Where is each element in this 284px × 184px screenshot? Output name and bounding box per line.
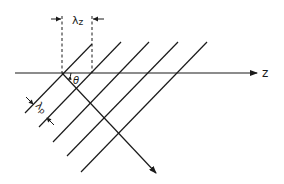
- wavefront-4: [67, 42, 178, 156]
- lambda-z-label: λz: [72, 14, 84, 27]
- theta-label: θ: [73, 75, 79, 86]
- wavefront-5: [81, 42, 207, 172]
- z-axis-label: z: [262, 66, 268, 80]
- propagation-direction-arrow: [62, 73, 156, 173]
- arrow-right-icon: [56, 17, 61, 22]
- wavefront-1: [25, 44, 92, 113]
- wavefront-3: [53, 42, 149, 142]
- wavefront-diagram: z λz θ λp: [0, 0, 284, 184]
- wavefronts: [25, 42, 207, 172]
- arrow-left-icon: [93, 17, 98, 22]
